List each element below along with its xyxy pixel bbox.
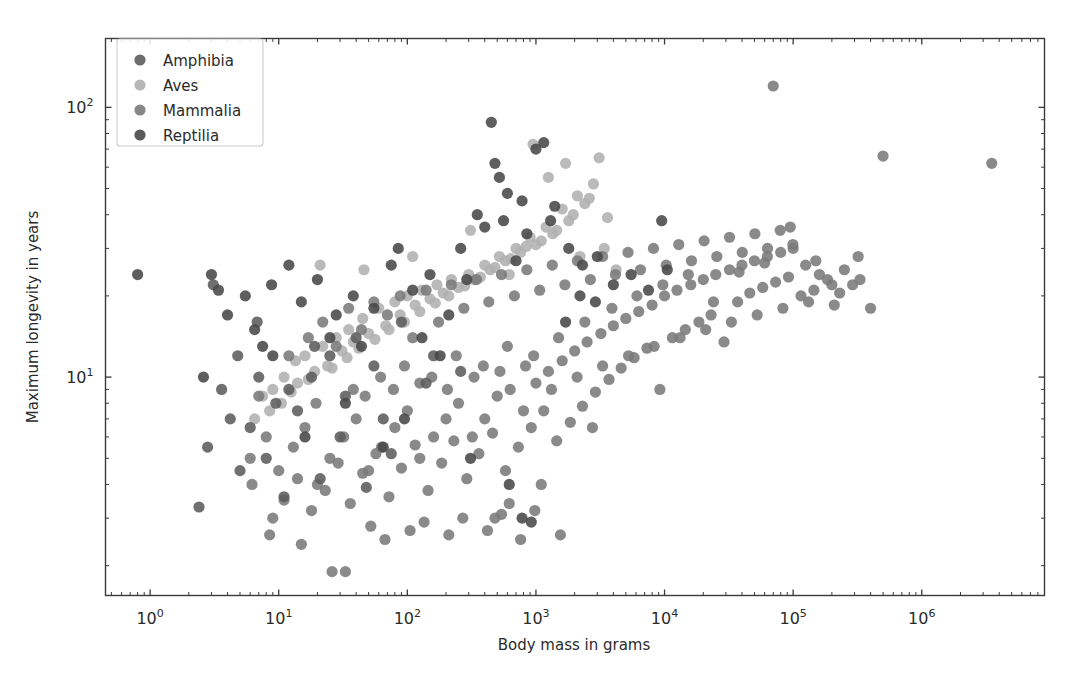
data-point <box>865 303 876 314</box>
data-point <box>340 566 351 577</box>
data-point <box>257 341 268 352</box>
data-point <box>686 255 697 266</box>
data-point <box>428 431 439 442</box>
data-point <box>500 465 511 476</box>
legend[interactable]: AmphibiaAvesMammaliaReptilia <box>117 39 263 146</box>
data-point <box>608 320 619 331</box>
data-point <box>375 372 386 383</box>
data-point <box>699 235 710 246</box>
data-point <box>331 309 342 320</box>
data-point <box>340 398 351 409</box>
data-point <box>616 362 627 373</box>
data-point <box>785 221 796 232</box>
data-point <box>442 384 453 395</box>
data-point <box>421 285 432 296</box>
data-point <box>306 505 317 516</box>
data-point <box>443 309 454 320</box>
data-point <box>369 334 380 345</box>
data-point <box>584 193 595 204</box>
data-point <box>360 391 371 402</box>
data-point <box>202 442 213 453</box>
data-point <box>646 299 657 310</box>
data-point <box>292 405 303 416</box>
data-point <box>648 243 659 254</box>
data-point <box>309 341 320 352</box>
data-point <box>590 296 601 307</box>
data-point <box>225 413 236 424</box>
scatter-plot: 100101102103104105106 102101 Body mass i… <box>0 0 1088 681</box>
data-point <box>357 313 368 324</box>
data-point <box>620 313 631 324</box>
data-point <box>800 260 811 271</box>
data-point <box>296 539 307 550</box>
data-point <box>324 332 335 343</box>
data-point <box>853 251 864 262</box>
data-point <box>551 435 562 446</box>
data-point <box>708 296 719 307</box>
data-point <box>674 332 685 343</box>
data-point <box>510 255 521 266</box>
data-point <box>700 324 711 335</box>
data-point <box>273 465 284 476</box>
data-point <box>494 172 505 183</box>
data-point <box>560 316 571 327</box>
data-point <box>283 260 294 271</box>
data-point <box>549 201 560 212</box>
data-point <box>572 372 583 383</box>
data-point <box>492 391 503 402</box>
data-point <box>649 341 660 352</box>
data-point <box>808 285 819 296</box>
data-point <box>312 274 323 285</box>
data-point <box>245 453 256 464</box>
data-point <box>732 296 743 307</box>
data-point <box>626 269 637 280</box>
data-point <box>504 498 515 509</box>
data-point <box>395 290 406 301</box>
data-point <box>516 195 527 206</box>
data-point <box>334 431 345 442</box>
data-point <box>299 350 310 361</box>
data-point <box>673 239 684 250</box>
data-point <box>306 372 317 383</box>
data-point <box>711 251 722 262</box>
data-point <box>416 332 427 343</box>
data-point <box>461 274 472 285</box>
data-point <box>622 247 633 258</box>
data-point <box>536 479 547 490</box>
data-point <box>608 279 619 290</box>
data-point <box>448 435 459 446</box>
data-point <box>759 257 770 268</box>
data-point <box>787 239 798 250</box>
data-point <box>326 362 337 373</box>
data-point <box>399 360 410 371</box>
data-point <box>222 309 233 320</box>
data-point <box>399 413 410 424</box>
data-point <box>654 384 665 395</box>
data-point <box>283 350 294 361</box>
data-point <box>389 422 400 433</box>
data-point <box>734 267 745 278</box>
data-point <box>643 285 654 296</box>
data-point <box>455 366 466 377</box>
data-point <box>834 287 845 298</box>
data-point <box>482 525 493 536</box>
data-point <box>569 345 580 356</box>
data-point <box>288 442 299 453</box>
data-point <box>496 269 507 280</box>
data-point <box>559 279 570 290</box>
data-point <box>396 462 407 473</box>
figure-canvas: 100101102103104105106 102101 Body mass i… <box>0 0 1088 681</box>
data-point <box>565 417 576 428</box>
data-point <box>518 405 529 416</box>
data-point <box>610 269 621 280</box>
data-point <box>299 431 310 442</box>
data-point <box>278 491 289 502</box>
data-point <box>310 398 321 409</box>
data-point <box>543 366 554 377</box>
data-point <box>502 341 513 352</box>
data-point <box>685 279 696 290</box>
data-point <box>430 298 441 309</box>
data-point <box>606 303 617 314</box>
data-point <box>292 473 303 484</box>
data-point <box>266 279 277 290</box>
